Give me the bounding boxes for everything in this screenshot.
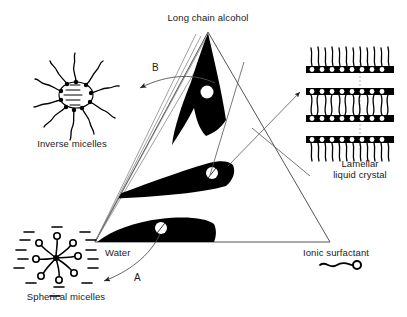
inverse-micelles-label: Inverse micelles <box>37 138 107 149</box>
lamellar-label-line2: liquid crystal <box>333 169 387 180</box>
upper-region-marker <box>201 86 214 99</box>
vertex-label-alcohol: Long chain alcohol <box>167 12 248 23</box>
surfactant-molecule-glyph <box>320 261 361 269</box>
vertex-label-ionic-surfactant: Ionic surfactant <box>303 247 369 258</box>
lamellar-label-line1: Lamellar <box>341 158 378 169</box>
lamellar-illustration <box>306 47 394 161</box>
arrow-B-label: B <box>152 62 159 73</box>
leader-lamellar-lower <box>252 128 310 176</box>
inverse-micelle-illustration <box>34 53 119 140</box>
diagram-canvas: Long chain alcohol Inverse micelles Sphe… <box>0 0 407 317</box>
lamellar-label: Lamellar liquid crystal <box>333 158 387 180</box>
leader-to-lamellar <box>228 92 300 166</box>
vertex-label-water: Water <box>105 247 130 258</box>
spherical-micelle-illustration <box>14 227 98 296</box>
arrow-A-label: A <box>134 272 141 283</box>
spherical-micelles-label: Spherical micelles <box>27 291 105 302</box>
